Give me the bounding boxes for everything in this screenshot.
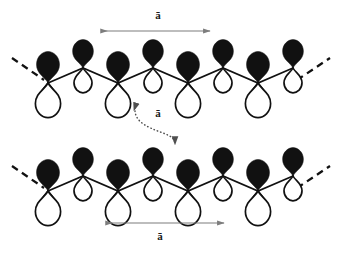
diagram-canvas: ā ā ā	[0, 0, 339, 253]
interchain-label: ā	[150, 108, 166, 119]
top-repeat-label: ā	[150, 10, 166, 21]
orbital-chain-figure	[0, 0, 339, 253]
bottom-repeat-label: ā	[152, 231, 168, 242]
